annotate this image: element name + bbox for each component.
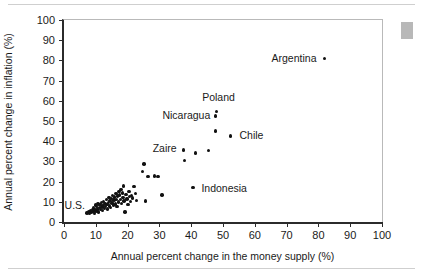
- data-point: [131, 196, 134, 199]
- data-point: [144, 199, 147, 202]
- y-axis-tick-label: 60: [43, 95, 55, 107]
- x-axis-tick: [318, 222, 319, 227]
- data-point: [229, 134, 232, 137]
- data-point: [142, 162, 145, 165]
- data-point: [134, 192, 137, 195]
- x-axis-tick: [159, 222, 160, 227]
- data-point: [214, 129, 217, 132]
- data-point: [156, 175, 159, 178]
- x-axis-tick: [191, 222, 192, 227]
- x-axis-tick: [128, 222, 129, 227]
- y-axis-title: Annual percent change in inflation (%): [0, 19, 16, 224]
- gray-square-marker: [401, 22, 413, 39]
- y-axis-tick: [59, 121, 64, 122]
- x-axis-tick: [350, 222, 351, 227]
- y-axis-tick: [59, 81, 64, 82]
- x-axis-tick-label: 60: [249, 229, 261, 241]
- data-point: [141, 170, 144, 173]
- data-point: [215, 110, 218, 113]
- y-axis-tick-label: 0: [49, 216, 55, 228]
- data-point: [129, 200, 132, 203]
- x-axis-tick: [96, 222, 97, 227]
- x-axis-title: Annual percent change in the money suppl…: [62, 250, 383, 262]
- data-point: [132, 185, 135, 188]
- y-axis-tick-label: 40: [43, 135, 55, 147]
- x-axis-tick: [223, 222, 224, 227]
- point-annotation-zaire: Zaire: [153, 142, 177, 154]
- x-axis-tick-label: 20: [121, 229, 133, 241]
- y-axis-tick-label: 10: [43, 196, 55, 208]
- x-axis-tick-label: 70: [280, 229, 292, 241]
- figure-canvas: Annual percent change in inflation (%) 0…: [0, 0, 423, 274]
- x-axis-tick: [64, 222, 65, 227]
- x-axis-tick: [382, 222, 383, 227]
- y-axis-tick: [59, 182, 64, 183]
- data-point: [182, 148, 185, 151]
- y-axis-title-text: Annual percent change in inflation (%): [2, 33, 14, 210]
- y-axis-tick-label: 20: [43, 176, 55, 188]
- x-axis-tick-label: 40: [185, 229, 197, 241]
- data-point: [183, 159, 186, 162]
- x-axis-tick-label: 0: [61, 229, 67, 241]
- y-axis-tick-label: 80: [43, 54, 55, 66]
- x-axis-tick: [287, 222, 288, 227]
- x-axis-tick-label: 50: [217, 229, 229, 241]
- point-annotation-indonesia: Indonesia: [201, 182, 247, 194]
- x-axis-tick: [255, 222, 256, 227]
- x-axis-tick-label: 30: [153, 229, 165, 241]
- y-axis-tick-label: 90: [43, 34, 55, 46]
- x-axis-tick-label: 90: [344, 229, 356, 241]
- data-point: [160, 193, 163, 196]
- y-axis-tick: [59, 141, 64, 142]
- data-point: [126, 203, 129, 206]
- y-axis-tick-label: 30: [43, 155, 55, 167]
- data-point: [146, 175, 149, 178]
- data-point: [214, 114, 217, 117]
- x-axis-tick-label: 80: [312, 229, 324, 241]
- data-point: [115, 205, 118, 208]
- point-annotation-us: U.S.: [65, 199, 85, 211]
- data-point: [207, 149, 210, 152]
- point-annotation-nicaragua: Nicaragua: [162, 109, 210, 121]
- y-axis-tick: [59, 40, 64, 41]
- top-divider-rule: [8, 4, 415, 5]
- point-annotation-poland: Poland: [202, 91, 235, 103]
- data-point: [127, 190, 130, 193]
- bottom-divider-rule: [8, 268, 415, 269]
- y-axis-tick: [59, 161, 64, 162]
- x-axis-tick-label: 10: [90, 229, 102, 241]
- data-point: [135, 199, 138, 202]
- y-axis-tick: [59, 101, 64, 102]
- data-point: [123, 210, 126, 213]
- data-point: [191, 186, 194, 189]
- y-axis-tick: [59, 20, 64, 21]
- data-point: [323, 57, 326, 60]
- data-point: [194, 151, 197, 154]
- x-axis-tick-label: 100: [373, 229, 391, 241]
- data-point: [122, 184, 125, 187]
- y-axis-tick: [59, 202, 64, 203]
- y-axis-tick-label: 50: [43, 115, 55, 127]
- y-axis-tick-label: 70: [43, 75, 55, 87]
- y-axis-tick: [59, 60, 64, 61]
- scatter-plot-area: 0102030405060708090100010203040506070809…: [62, 19, 383, 224]
- point-annotation-argentina: Argentina: [272, 52, 317, 64]
- y-axis-tick-label: 100: [37, 14, 55, 26]
- point-annotation-chile: Chile: [240, 129, 264, 141]
